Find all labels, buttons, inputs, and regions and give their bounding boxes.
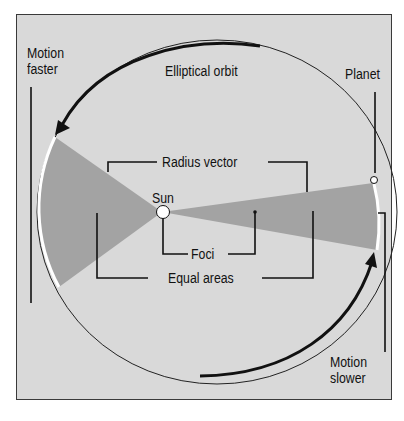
planet-label: Planet <box>345 66 380 82</box>
second-focus-dot <box>253 210 257 214</box>
left-equal-area-wedge <box>39 137 162 287</box>
sun-icon <box>157 206 170 219</box>
right-equal-area-wedge <box>162 183 379 250</box>
equal-areas-label: Equal areas <box>168 270 234 286</box>
radius-vector-label: Radius vector <box>162 154 237 170</box>
planet-icon <box>371 177 378 184</box>
bottom-arrow-head <box>365 252 377 268</box>
elliptical-orbit-label: Elliptical orbit <box>165 63 238 79</box>
motion-faster-label: Motion faster <box>27 45 64 77</box>
motion-slower-label: Motion slower <box>330 354 367 386</box>
top-motion-arrow <box>62 44 260 125</box>
sun-label: Sun <box>152 190 174 206</box>
foci-label: Foci <box>191 246 214 262</box>
